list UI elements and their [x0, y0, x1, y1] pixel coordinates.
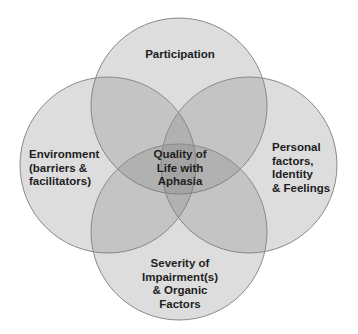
label-participation: Participation — [140, 48, 220, 62]
label-personal-factors: Personal factors, Identity & Feelings — [272, 141, 352, 195]
label-quality-of-life: Quality of Life with Aphasia — [140, 148, 220, 189]
label-environment: Environment (barriers & facilitators) — [29, 148, 119, 189]
label-severity: Severity of Impairment(s) & Organic Fact… — [130, 257, 230, 311]
